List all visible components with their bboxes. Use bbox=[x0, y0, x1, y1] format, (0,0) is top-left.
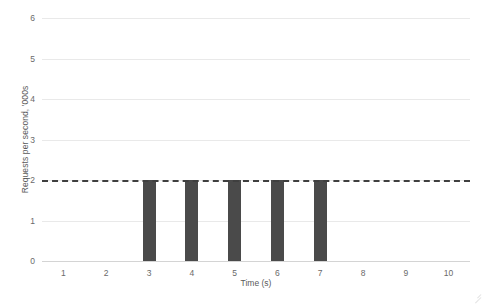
x-tick-label: 8 bbox=[343, 269, 383, 278]
x-tick-label: 1 bbox=[43, 269, 83, 278]
x-tick-label: 3 bbox=[129, 269, 169, 278]
gridline: 6 bbox=[42, 18, 470, 19]
y-tick-label: 1 bbox=[5, 217, 35, 226]
x-tick-label: 5 bbox=[215, 269, 255, 278]
y-tick-label: 5 bbox=[5, 55, 35, 64]
threshold-line bbox=[42, 180, 470, 182]
x-tick-label: 6 bbox=[257, 269, 297, 278]
bar bbox=[185, 180, 198, 261]
gridline: 1 bbox=[42, 221, 470, 222]
plot-area: 0123456 12345678910 bbox=[42, 18, 470, 261]
y-tick-label: 0 bbox=[5, 257, 35, 266]
y-tick-label: 3 bbox=[5, 136, 35, 145]
y-tick-label: 6 bbox=[5, 14, 35, 23]
resize-handle-icon bbox=[473, 291, 481, 299]
bar bbox=[228, 180, 241, 261]
y-tick-label: 4 bbox=[5, 95, 35, 104]
bar bbox=[143, 180, 156, 261]
x-axis-baseline: 0 bbox=[42, 261, 470, 262]
gridline: 4 bbox=[42, 99, 470, 100]
x-tick-label: 2 bbox=[86, 269, 126, 278]
y-tick-label: 2 bbox=[5, 176, 35, 185]
bar bbox=[314, 180, 327, 261]
x-tick-label: 7 bbox=[300, 269, 340, 278]
x-tick-label: 10 bbox=[429, 269, 469, 278]
gridline: 5 bbox=[42, 59, 470, 60]
bar-chart: Requests per second, '000s 0123456 12345… bbox=[0, 0, 487, 304]
gridline: 3 bbox=[42, 140, 470, 141]
x-tick-label: 4 bbox=[172, 269, 212, 278]
bar bbox=[271, 180, 284, 261]
x-tick-label: 9 bbox=[386, 269, 426, 278]
x-axis-title: Time (s) bbox=[42, 278, 470, 288]
